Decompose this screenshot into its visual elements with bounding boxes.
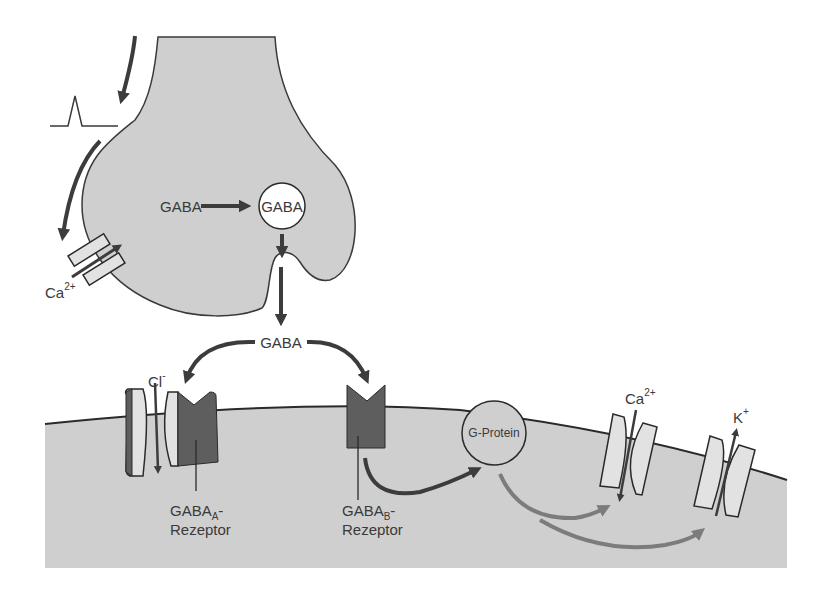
presynaptic-ca-label: Ca2+ (45, 281, 76, 301)
incoming-signal-arrow (122, 36, 135, 98)
g-protein-label: G-Protein (468, 426, 519, 440)
vesicle-label: GABA (261, 198, 303, 215)
potassium-label: K+ (733, 406, 749, 426)
spike-icon (50, 96, 118, 126)
gaba-synapse-diagram: Ca2+ GABA GABA GABA Cl- GABAA- Rezeptor … (0, 0, 827, 600)
presynaptic-terminal (82, 37, 355, 316)
gaba-a-receptor-label-line2: Rezeptor (170, 521, 231, 538)
gaba-to-gaba-b-arrow (307, 342, 366, 378)
cleft-gaba-label: GABA (260, 334, 302, 351)
gaba-to-gaba-a-arrow (187, 342, 255, 378)
chloride-label: Cl- (148, 370, 166, 390)
postsynaptic-ca-label: Ca2+ (625, 387, 656, 407)
gaba-b-receptor-label-line2: Rezeptor (342, 521, 403, 538)
gaba-source-label: GABA (160, 198, 202, 215)
